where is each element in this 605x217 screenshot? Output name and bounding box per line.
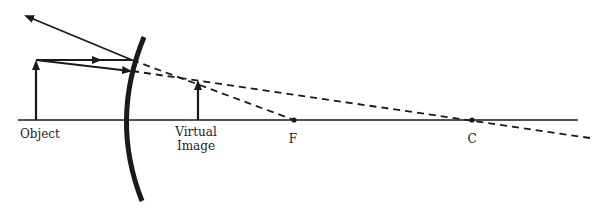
- focal-point-dot: [291, 117, 296, 122]
- focal-point-label: F: [289, 132, 297, 146]
- reflected-ray: [26, 16, 132, 60]
- center-of-curvature-label: C: [467, 132, 476, 146]
- virtual-image-label-line1: Virtual: [174, 125, 217, 139]
- convex-mirror-ray-diagram: Object Virtual Image F C: [0, 0, 605, 217]
- convex-mirror: [126, 37, 144, 201]
- virtual-image-label-line2: Image: [177, 139, 215, 153]
- incident-ray-toward-center: [36, 60, 130, 71]
- object-label: Object: [20, 127, 60, 141]
- dashed-extension-to-focal-point: [132, 60, 294, 120]
- center-of-curvature-dot: [469, 117, 474, 122]
